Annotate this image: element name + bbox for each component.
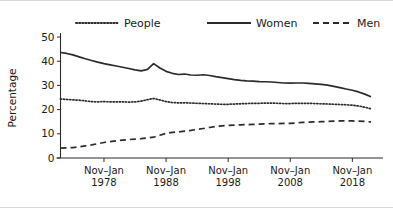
y-tick-label: 50 [41,31,54,43]
x-tick-label-month: Nov–Jan [146,165,186,176]
y-axis-title: Percentage [6,68,18,127]
line-chart: PeopleWomenMen 01020304050 Nov–Jan1978No… [0,0,393,208]
legend-label-men: Men [357,17,380,30]
chart-figure: PeopleWomenMen 01020304050 Nov–Jan1978No… [0,0,393,208]
y-tick-label: 0 [48,152,55,164]
x-tick-label-month: Nov–Jan [208,165,248,176]
y-tick-label: 20 [41,103,54,115]
legend-label-people: People [124,17,161,30]
x-tick-label-year: 1988 [153,177,178,188]
x-tick-label-month: Nov–Jan [332,165,372,176]
x-tick-label-year: 2008 [278,177,303,188]
y-tick-label: 40 [41,55,54,67]
y-tick-label: 30 [41,79,54,91]
x-tick-label-year: 1978 [91,177,116,188]
x-tick-label-year: 2018 [340,177,365,188]
legend-label-women: Women [256,17,297,30]
x-tick-label-year: 1998 [215,177,240,188]
x-tick-label-month: Nov–Jan [84,165,124,176]
x-tick-label-month: Nov–Jan [270,165,310,176]
y-tick-label: 10 [41,127,54,139]
